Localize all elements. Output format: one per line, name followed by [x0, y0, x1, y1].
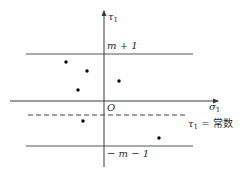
- point: [117, 79, 120, 82]
- tau-axis-label: τ1: [108, 11, 118, 24]
- point: [157, 136, 160, 139]
- sigma-axis-label: σ1: [209, 101, 220, 114]
- point: [81, 119, 84, 122]
- diagram-canvas: τ1 m + 1 O σ1 τ1 = 常数 − m − 1: [0, 0, 247, 187]
- lower-bound-label: − m − 1: [107, 148, 149, 159]
- dashed-line-label: τ1 = 常数: [188, 117, 233, 131]
- point: [64, 60, 67, 63]
- upper-bound-label: m + 1: [107, 40, 138, 51]
- data-points: [64, 60, 160, 139]
- point: [85, 69, 88, 72]
- point: [76, 88, 79, 91]
- origin-label: O: [107, 102, 115, 113]
